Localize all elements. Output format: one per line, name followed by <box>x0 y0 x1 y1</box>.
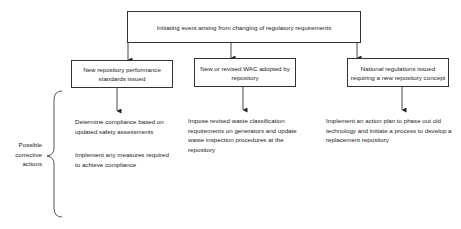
action-text: Implement any measures required to achie… <box>75 150 175 169</box>
branch-box-national-regulations: National regulations issued requiring a … <box>347 58 449 87</box>
action-text: Impose revised waste classification requ… <box>188 116 306 154</box>
action-text: Determine compliance based on updated sa… <box>75 117 175 136</box>
branch-label: New or revised WAC adopted by repository <box>199 64 291 82</box>
brace-label: Possible corrective actions <box>4 140 42 169</box>
branch-box-wac: New or revised WAC adopted by repository <box>194 58 296 87</box>
curly-brace <box>47 91 62 217</box>
root-event-box: Initiating event arising from changing o… <box>127 11 361 43</box>
branch-box-performance-standards: New repository performance standards iss… <box>71 60 173 88</box>
branch-label: National regulations issued requiring a … <box>350 64 446 82</box>
branch-label: New repository performance standards iss… <box>78 65 166 83</box>
root-event-label: Initiating event arising from changing o… <box>157 23 332 32</box>
action-text: Implement an action plan to phase out ol… <box>326 116 454 145</box>
